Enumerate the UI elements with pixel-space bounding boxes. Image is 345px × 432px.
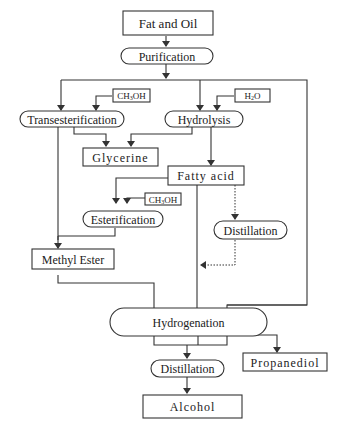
node-hydrogenation: Hydrogenation [110, 308, 267, 336]
node-label: Methyl Ester [42, 253, 104, 267]
edge-transesterification-to-glycerine [74, 126, 106, 146]
edge-methanol-to-transesterification [96, 96, 112, 110]
edge-water-to-hydrolysis [217, 96, 234, 110]
edge-hydrogenation-collect [154, 336, 227, 345]
node-label: Alcohol [170, 400, 216, 414]
node-label: Distillation [161, 362, 215, 376]
edge-hydrolysis-to-glycerine [131, 126, 192, 146]
edge-distillation-return [201, 240, 235, 265]
node-label: Hydrogenation [153, 316, 225, 330]
node-methanol-reagent-2: CH3OH [145, 193, 181, 205]
node-label: Distillation [224, 224, 278, 238]
node-esterification: Esterification [83, 211, 163, 227]
edge-methanol-to-esterification [127, 198, 145, 203]
node-label: Esterification [91, 213, 156, 227]
node-propanediol: Propanediol [243, 353, 327, 371]
node-label: Purification [139, 50, 196, 64]
node-fat-and-oil: Fat and Oil [123, 11, 213, 35]
edge-esterification-to-methyl-ester [58, 228, 115, 236]
node-methyl-ester: Methyl Ester [32, 249, 114, 269]
node-distillation-2: Distillation [151, 360, 224, 377]
node-alcohol: Alcohol [143, 395, 242, 418]
node-label: Transesterification [27, 113, 117, 127]
node-methanol-reagent-1: CH3OH [113, 89, 150, 102]
node-fatty-acid: Fatty acid [168, 166, 244, 185]
node-label: Glycerine [92, 151, 148, 165]
node-purification: Purification [121, 48, 213, 64]
node-label: Hydrolysis [178, 113, 231, 127]
node-hydrolysis: Hydrolysis [165, 111, 243, 127]
node-label: Propanediol [251, 356, 320, 370]
edge-hydrogenation-to-propanediol [227, 335, 277, 352]
process-flowchart: Fat and Oil Purification CH3OH Transeste… [0, 0, 345, 432]
node-label: Fat and Oil [139, 16, 198, 31]
node-transesterification: Transesterification [20, 111, 124, 127]
node-distillation-1: Distillation [214, 221, 287, 239]
node-label: Fatty acid [177, 169, 235, 183]
node-water-reagent: H2O [235, 89, 270, 102]
node-glycerine: Glycerine [83, 148, 158, 166]
